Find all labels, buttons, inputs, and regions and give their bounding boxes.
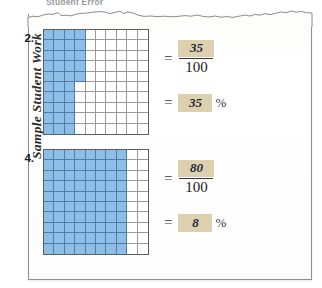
grid-cell-empty: [96, 61, 106, 71]
grid-cell-shaded: [86, 244, 96, 254]
grid-cell-empty: [138, 212, 148, 222]
grid-cell-empty: [75, 124, 85, 134]
grid-cell-shaded: [65, 223, 75, 233]
grid-cell-shaded: [86, 212, 96, 222]
grid-cell-empty: [138, 150, 148, 160]
grid-cell-empty: [117, 92, 127, 102]
problem-number: 4.: [12, 152, 34, 164]
grid-cell-empty: [127, 223, 137, 233]
grid-cell-empty: [138, 30, 148, 40]
grid-cell-shaded: [65, 171, 75, 181]
fraction-answer-row: = 35 100: [164, 40, 214, 76]
grid-cell-empty: [127, 30, 137, 40]
grid-cell-shaded: [96, 150, 106, 160]
grid-cell-shaded: [65, 72, 75, 82]
grid-cell-shaded: [54, 212, 64, 222]
problem-number: 2.: [12, 32, 34, 44]
grid-cell-shaded: [96, 202, 106, 212]
grid-cell-empty: [86, 61, 96, 71]
grid-cell-shaded: [54, 113, 64, 123]
grid-cell-shaded: [86, 150, 96, 160]
grid-cell-empty: [106, 113, 116, 123]
fraction-answer-row: = 80 100: [164, 160, 214, 196]
grid-cell-shaded: [44, 51, 54, 61]
grid-cell-shaded: [106, 233, 116, 243]
hundredths-grid: [43, 149, 149, 255]
grid-cell-empty: [75, 92, 85, 102]
grid-cell-empty: [86, 51, 96, 61]
grid-cell-shaded: [54, 244, 64, 254]
equals-sign: =: [164, 171, 172, 186]
grid-cell-shaded: [75, 51, 85, 61]
grid-cell-shaded: [65, 124, 75, 134]
grid-cell-shaded: [117, 171, 127, 181]
fraction-denominator: 100: [185, 179, 208, 196]
grid-cell-empty: [117, 113, 127, 123]
grid-cell-shaded: [117, 150, 127, 160]
grid-cell-shaded: [106, 181, 116, 191]
grid-cell-empty: [96, 124, 106, 134]
grid-cell-shaded: [44, 72, 54, 82]
grid-cell-shaded: [54, 82, 64, 92]
grid-cell-empty: [86, 30, 96, 40]
grid-cell-empty: [127, 92, 137, 102]
grid-cell-empty: [138, 113, 148, 123]
grid-cell-shaded: [44, 171, 54, 181]
percent-answer-row: = 35 %: [164, 94, 226, 112]
grid-cell-empty: [138, 223, 148, 233]
grid-cell-empty: [117, 82, 127, 92]
grid-cell-shaded: [86, 171, 96, 181]
grid-cell-empty: [106, 82, 116, 92]
grid-cell-shaded: [65, 192, 75, 202]
grid-cell-empty: [106, 92, 116, 102]
grid-cell-empty: [127, 72, 137, 82]
grid-cell-shaded: [65, 61, 75, 71]
grid-cell-shaded: [44, 30, 54, 40]
grid-cell-shaded: [54, 61, 64, 71]
fraction: 80 100: [178, 160, 214, 196]
grid-cell-empty: [138, 202, 148, 212]
grid-cell-shaded: [75, 202, 85, 212]
grid-cell-empty: [86, 124, 96, 134]
percent-value: 8: [178, 214, 212, 232]
grid-cell-shaded: [86, 192, 96, 202]
grid-cell-empty: [86, 72, 96, 82]
grid-cell-empty: [127, 192, 137, 202]
grid-cell-shaded: [75, 244, 85, 254]
percent-answer-row: = 8 %: [164, 214, 226, 232]
grid-cell-empty: [138, 244, 148, 254]
grid-cell-empty: [86, 113, 96, 123]
grid-cell-shaded: [75, 192, 85, 202]
grid-cell-shaded: [117, 233, 127, 243]
grid-cell-empty: [127, 212, 137, 222]
grid-cell-shaded: [86, 223, 96, 233]
grid-cell-shaded: [117, 244, 127, 254]
grid-cell-shaded: [54, 192, 64, 202]
grid-cell-empty: [138, 171, 148, 181]
grid-cell-shaded: [44, 113, 54, 123]
grid-cell-shaded: [65, 92, 75, 102]
fraction-numerator: 35: [178, 40, 214, 57]
grid-cell-empty: [117, 124, 127, 134]
grid-cell-empty: [96, 103, 106, 113]
grid-cell-empty: [127, 181, 137, 191]
grid-cell-empty: [127, 103, 137, 113]
grid-cell-shaded: [117, 181, 127, 191]
grid-cell-shaded: [44, 212, 54, 222]
grid-cell-empty: [106, 40, 116, 50]
grid-cell-shaded: [54, 181, 64, 191]
grid-cell-shaded: [86, 202, 96, 212]
equals-sign: =: [164, 95, 172, 110]
grid-cell-shaded: [75, 181, 85, 191]
grid-cell-shaded: [44, 150, 54, 160]
grid-cell-shaded: [44, 40, 54, 50]
grid-cell-shaded: [96, 181, 106, 191]
grid-cell-shaded: [86, 160, 96, 170]
grid-cell-empty: [96, 113, 106, 123]
percent-value: 35: [178, 94, 212, 112]
problem-item: 4. = 80 100 = 8 %: [12, 146, 274, 258]
grid-cell-shaded: [106, 244, 116, 254]
grid-cell-empty: [117, 103, 127, 113]
grid-cell-shaded: [44, 233, 54, 243]
grid-cell-empty: [86, 92, 96, 102]
